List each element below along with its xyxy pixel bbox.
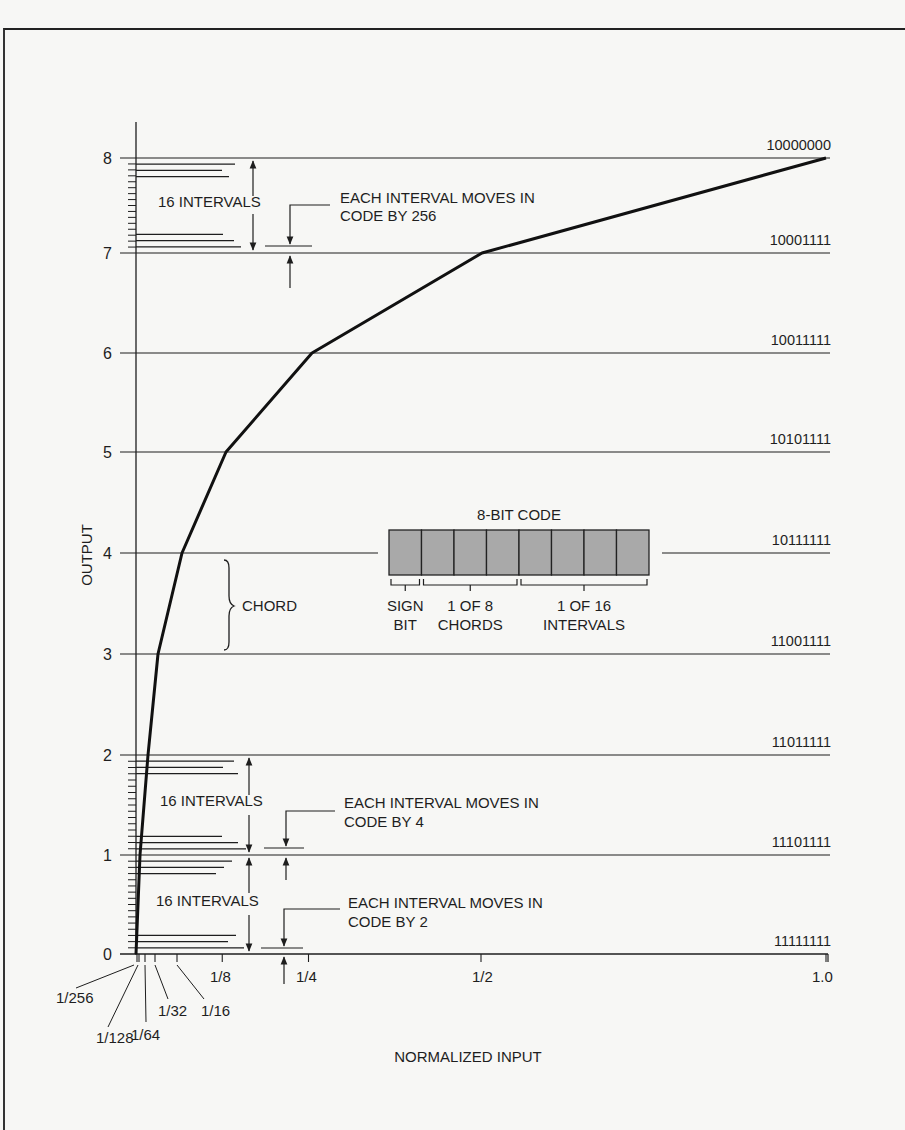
inset-group-label-2: 1 OF 16 xyxy=(557,597,611,614)
svg-text:INTERVALS: INTERVALS xyxy=(543,616,625,633)
inset-title: 8-BIT CODE xyxy=(477,506,561,523)
code-label-5: 10101111 xyxy=(770,431,831,447)
bit-cell-7 xyxy=(617,530,650,575)
x-tick-1-8: 1/8 xyxy=(210,968,231,985)
svg-text:CODE BY 2: CODE BY 2 xyxy=(348,913,428,930)
y-tick-7: 7 xyxy=(103,245,112,262)
svg-text:CODE BY 256: CODE BY 256 xyxy=(340,207,436,224)
x-tick-1-16: 1/16 xyxy=(201,1002,230,1019)
bit-cell-6 xyxy=(584,530,617,575)
code-label-7: 10001111 xyxy=(770,232,831,248)
x-tick-1.0: 1.0 xyxy=(812,968,833,985)
chord-brace xyxy=(224,560,234,650)
annotation-each-interval-256: EACH INTERVAL MOVES IN xyxy=(340,189,535,206)
x-tick-labels: 1/2561/1281/641/321/161/81/41/21.0 xyxy=(56,954,833,1046)
y-axis-label: OUTPUT xyxy=(78,524,95,586)
code-label-1: 11101111 xyxy=(772,834,831,850)
bit-cell-5 xyxy=(552,530,585,575)
y-tick-3: 3 xyxy=(103,646,112,663)
svg-text:CHORDS: CHORDS xyxy=(438,616,503,633)
annotation-each-interval-4: EACH INTERVAL MOVES IN xyxy=(344,794,539,811)
x-tick-1-4: 1/4 xyxy=(296,968,317,985)
svg-text:BIT: BIT xyxy=(394,616,417,633)
eight-bit-code-inset: 8-BIT CODESIGNBIT1 OF 8CHORDS1 OF 16INTE… xyxy=(387,506,649,633)
code-label-2: 11011111 xyxy=(772,734,831,750)
annotation-16-intervals-top: 16 INTERVALS xyxy=(158,193,261,210)
x-tick-1-32: 1/32 xyxy=(158,1002,187,1019)
minor-interval-ticks xyxy=(128,164,246,948)
code-labels: 1000000010001111100111111010111110111111… xyxy=(766,137,831,949)
y-tick-1: 1 xyxy=(103,847,112,864)
x-tick-1-2: 1/2 xyxy=(472,968,493,985)
y-tick-8: 8 xyxy=(103,150,112,167)
y-tick-0: 0 xyxy=(103,946,112,963)
bit-cell-0 xyxy=(389,530,422,575)
bit-cell-3 xyxy=(487,530,520,575)
y-tick-5: 5 xyxy=(103,444,112,461)
code-label-0: 11111111 xyxy=(774,933,831,949)
code-label-8: 10000000 xyxy=(766,137,831,153)
y-tick-2: 2 xyxy=(103,747,112,764)
annotation-each-interval-2: EACH INTERVAL MOVES IN xyxy=(348,894,543,911)
code-label-4: 10111111 xyxy=(772,532,831,548)
inset-group-label-1: 1 OF 8 xyxy=(447,597,493,614)
x-tick-1-128: 1/128 xyxy=(96,1029,134,1046)
annotation-16-intervals-mid: 16 INTERVALS xyxy=(160,792,263,809)
x-axis-label: NORMALIZED INPUT xyxy=(394,1048,542,1065)
annotation-16-intervals-bottom: 16 INTERVALS xyxy=(156,892,259,909)
bit-cell-4 xyxy=(519,530,552,575)
bit-cell-1 xyxy=(422,530,455,575)
code-label-3: 11001111 xyxy=(771,633,831,649)
y-tick-6: 6 xyxy=(103,345,112,362)
y-tick-labels: 012345678 xyxy=(103,150,112,963)
svg-text:CODE BY 4: CODE BY 4 xyxy=(344,813,424,830)
x-tick-1-64: 1/64 xyxy=(131,1026,160,1043)
code-label-6: 10011111 xyxy=(771,332,831,348)
x-tick-1-256: 1/256 xyxy=(56,989,94,1006)
inset-group-label-0: SIGN xyxy=(387,597,424,614)
y-tick-4: 4 xyxy=(103,545,112,562)
annotation-chord: CHORD xyxy=(242,597,297,614)
bit-cell-2 xyxy=(454,530,487,575)
